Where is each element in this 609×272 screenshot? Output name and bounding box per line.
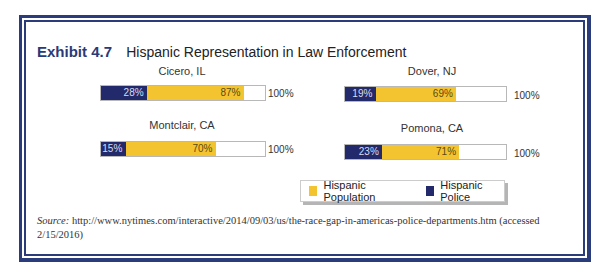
- population-swatch: [309, 186, 317, 196]
- police-swatch: [426, 186, 434, 196]
- population-value-label: 87%: [101, 87, 240, 98]
- source-prefix: Source:: [37, 215, 69, 226]
- bar-montclair: 15% 70%: [100, 141, 266, 157]
- city-label-montclair: Montclair, CA: [102, 119, 262, 131]
- source-note: Source: http://www.nytimes.com/interacti…: [37, 214, 557, 242]
- city-label-pomona: Pomona, CA: [352, 122, 512, 134]
- population-value-label: 71%: [345, 146, 456, 157]
- exhibit-title: Exhibit 4.7 Hispanic Representation in L…: [37, 43, 406, 60]
- population-value-label: 69%: [345, 88, 453, 99]
- total-label: 100%: [514, 90, 540, 101]
- chart-legend: Hispanic Population Hispanic Police: [300, 180, 505, 202]
- population-value-label: 70%: [101, 143, 213, 154]
- legend-label-population: Hispanic Population: [323, 179, 405, 203]
- bar-cicero: 28% 87%: [100, 85, 266, 101]
- city-label-dover: Dover, NJ: [352, 65, 512, 77]
- total-label: 100%: [514, 148, 540, 159]
- exhibit-number: Exhibit 4.7: [37, 43, 112, 60]
- bar-dover: 19% 69%: [344, 86, 507, 102]
- total-label: 100%: [268, 88, 294, 99]
- bar-pomona: 23% 71%: [344, 144, 507, 160]
- city-label-cicero: Cicero, IL: [102, 65, 262, 77]
- legend-label-police: Hispanic Police: [440, 179, 504, 203]
- exhibit-name: Hispanic Representation in Law Enforceme…: [126, 44, 406, 60]
- total-label: 100%: [268, 144, 294, 155]
- source-text: http://www.nytimes.com/interactive/2014/…: [37, 215, 539, 240]
